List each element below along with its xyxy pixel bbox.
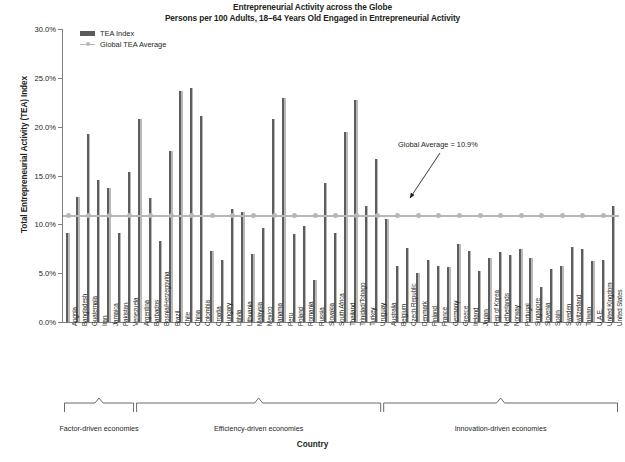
- x-tick-label: Norway: [513, 305, 520, 326]
- x-tick-label: Ireland: [472, 308, 479, 327]
- y-tick-label: 10.0%: [0, 220, 56, 229]
- x-tick-label: Pakistan: [122, 303, 129, 326]
- average-marker: [416, 213, 421, 218]
- bar-side-face: [233, 209, 234, 322]
- bar: [107, 188, 110, 322]
- y-tick-mark: [58, 224, 62, 225]
- economy-group-label: Efficiency-driven economies: [159, 424, 359, 433]
- bar-side-face: [490, 258, 491, 322]
- x-tick-label: United States: [616, 290, 623, 326]
- average-marker: [127, 213, 132, 218]
- y-tick-mark: [58, 273, 62, 274]
- y-tick-label: 0.0%: [0, 318, 56, 327]
- x-tick-label: Netherlands: [503, 293, 510, 326]
- bar: [128, 172, 131, 322]
- bar-side-face: [264, 228, 265, 322]
- x-tick-label: Trinidad/Tobago: [359, 283, 366, 326]
- y-tick-label: 20.0%: [0, 123, 56, 132]
- average-marker: [601, 213, 606, 218]
- x-tick-label: Jamaica: [112, 303, 119, 326]
- bar-side-face: [459, 244, 460, 322]
- average-marker: [539, 213, 544, 218]
- bar-side-face: [181, 91, 182, 322]
- bar: [190, 88, 193, 322]
- bar-side-face: [356, 100, 357, 322]
- x-tick-label: Denmark: [421, 301, 428, 326]
- x-tick-label: Australia: [390, 302, 397, 326]
- x-tick-label: Greece: [462, 306, 469, 326]
- bar-side-face: [171, 151, 172, 322]
- x-tick-label: Latvia: [235, 310, 242, 326]
- x-tick-label: Lithuania: [246, 301, 253, 326]
- x-tick-label: Croatia: [215, 306, 222, 326]
- y-tick-mark: [58, 127, 62, 128]
- bar-side-face: [377, 159, 378, 322]
- bar: [138, 119, 141, 322]
- average-marker: [292, 213, 297, 218]
- x-tick-label: China: [194, 310, 201, 326]
- x-tick-label: Taiwan: [585, 307, 592, 326]
- y-tick-label: 15.0%: [0, 172, 56, 181]
- bar-side-face: [367, 206, 368, 322]
- x-tick-label: Slovenia: [544, 303, 551, 326]
- bar-side-face: [192, 88, 193, 322]
- bar: [293, 234, 296, 322]
- x-tick-label: Uruguay: [379, 303, 386, 326]
- x-tick-label: Germany: [452, 301, 459, 326]
- annotation-label: Global Average = 10.9%: [398, 140, 478, 149]
- x-tick-label: Turkey: [369, 308, 376, 326]
- x-tick-label: Bosnia/Herzegovina: [163, 272, 170, 327]
- economy-group-label: Innovation-driven economies: [401, 424, 601, 433]
- bar-side-face: [593, 261, 594, 322]
- bar-side-face: [326, 183, 327, 322]
- bar-side-face: [89, 134, 90, 322]
- x-tick-label: Brazil: [174, 311, 181, 326]
- x-tick-label: Argentina: [143, 300, 150, 326]
- bar-side-face: [398, 266, 399, 322]
- x-tick-label: Malaysia: [256, 302, 263, 326]
- y-tick-mark: [58, 78, 62, 79]
- y-tick-mark: [58, 322, 62, 323]
- average-marker: [436, 213, 441, 218]
- chart-title-block: Entrepreneurial Activity across the Glob…: [0, 2, 625, 24]
- x-tick-label: Finland: [431, 306, 438, 326]
- x-tick-label: Singapore: [534, 298, 541, 326]
- x-tick-label: Switzerland: [575, 295, 582, 326]
- bar-side-face: [531, 258, 532, 322]
- x-tick-label: Guatemala: [91, 296, 98, 326]
- bar-side-face: [346, 132, 347, 322]
- bar: [324, 183, 327, 322]
- average-marker: [272, 213, 277, 218]
- bar-side-face: [501, 252, 502, 322]
- y-tick-label: 25.0%: [0, 74, 56, 83]
- x-tick-label: United Kingdom: [606, 283, 613, 326]
- bar-side-face: [274, 119, 275, 322]
- average-marker: [498, 213, 503, 218]
- y-tick-mark: [58, 29, 62, 30]
- x-tick-label: Chile: [184, 312, 191, 326]
- x-tick-label: Romania: [307, 301, 314, 326]
- bar-side-face: [573, 247, 574, 322]
- average-marker: [354, 213, 359, 218]
- average-marker: [251, 213, 256, 218]
- bar-side-face: [295, 234, 296, 322]
- bar-side-face: [99, 180, 100, 322]
- average-marker: [230, 213, 235, 218]
- x-tick-label: U.A.E.: [596, 308, 603, 326]
- average-marker: [519, 213, 524, 218]
- bar-side-face: [212, 251, 213, 322]
- x-tick-label: Panama: [276, 303, 283, 326]
- bar-side-face: [284, 98, 285, 322]
- average-marker: [395, 213, 400, 218]
- plot-area: [63, 29, 619, 322]
- bar-side-face: [562, 266, 563, 322]
- bar-side-face: [120, 233, 121, 322]
- average-marker: [313, 213, 318, 218]
- x-tick-label: Slovakia: [328, 303, 335, 326]
- average-marker: [457, 213, 462, 218]
- x-axis-title: Country: [0, 440, 625, 449]
- bar-side-face: [542, 287, 543, 322]
- x-tick-label: Iran: [101, 316, 108, 326]
- bar-side-face: [202, 116, 203, 322]
- average-marker: [333, 213, 338, 218]
